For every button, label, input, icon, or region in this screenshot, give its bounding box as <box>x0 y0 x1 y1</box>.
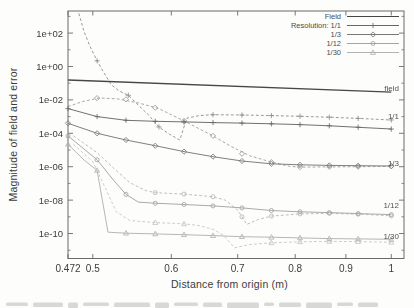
curve-label-1-12: 1/12 <box>383 201 399 210</box>
x-axis-title: Distance from origin (m) <box>68 278 391 290</box>
figure: 0.4720.50.60.70.80.911e+021e+001e-021e-0… <box>0 0 414 308</box>
legend-label: 1/3 <box>331 30 341 39</box>
y-tick-label: 1e-04 <box>39 128 63 139</box>
legend-sample-line <box>345 48 401 57</box>
x-tick-label: 0.472 <box>55 263 80 274</box>
y-tick-label: 1e-10 <box>39 228 63 239</box>
y-tick-label: 1e-08 <box>39 195 63 206</box>
x-tick-label: 0.7 <box>231 263 245 274</box>
legend-entry-1-3: 1/3 <box>291 30 401 39</box>
series-field <box>68 80 391 92</box>
legend-label: 1/30 <box>326 48 341 57</box>
curve-label-1-30: 1/30 <box>383 232 399 241</box>
y-tick-label: 1e-06 <box>39 161 63 172</box>
series-res-1-1-error <box>65 106 393 132</box>
legend-sample-line <box>345 12 401 21</box>
y-tick-label: 1e+00 <box>36 61 63 72</box>
legend-label: 1/12 <box>326 39 341 48</box>
legend: FieldResolution: 1/11/31/121/30 <box>291 12 401 57</box>
legend-entry-1-30: 1/30 <box>291 48 401 57</box>
y-tick-label: 1e-02 <box>39 94 63 105</box>
curve-label-1-3: 1/3 <box>388 159 400 168</box>
legend-sample-line <box>345 21 401 30</box>
x-tick-label: 0.5 <box>86 263 100 274</box>
x-tick-label: 0.9 <box>339 263 353 274</box>
y-tick-label: 1e+02 <box>36 28 63 39</box>
series-res-1-12-estimate <box>73 136 393 225</box>
legend-sample-line <box>345 39 401 48</box>
curve-label-1-1: 1/1 <box>388 112 400 121</box>
x-tick-label: 1 <box>388 263 394 274</box>
series-res-1-30-error <box>66 142 394 242</box>
curve-label-field: field <box>384 84 399 93</box>
legend-sample-line <box>345 30 401 39</box>
series-res-1-3-estimate <box>68 96 394 170</box>
legend-entry-resolution-1-1: Resolution: 1/1 <box>291 21 401 30</box>
y-axis-title: Magnitude of field and error <box>7 35 20 235</box>
legend-entry-1-12: 1/12 <box>291 39 401 48</box>
legend-entry-field: Field <box>291 12 401 21</box>
caption-remnant <box>6 303 378 308</box>
series-res-1-3-error <box>65 121 393 169</box>
legend-label: Resolution: 1/1 <box>291 21 341 30</box>
x-tick-label: 0.6 <box>164 263 178 274</box>
x-tick-label: 0.8 <box>288 263 302 274</box>
legend-label: Field <box>325 12 341 21</box>
